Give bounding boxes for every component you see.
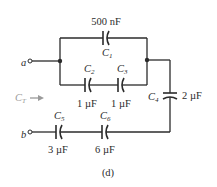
c4-value: 2 µF	[182, 90, 202, 101]
c3-label: C3	[117, 63, 128, 76]
c4-label: C4	[148, 91, 159, 104]
c6-value: 6 µF	[95, 144, 115, 155]
circuit-diagram: 500 nF C1 C2 1 µF C3 1 µF C4 2 µF C5 3 µ…	[0, 0, 217, 187]
ct-label: CT	[15, 92, 27, 105]
terminal-b-label: b	[21, 129, 26, 140]
arrow-right-icon	[38, 95, 44, 101]
c1-label: C1	[102, 47, 113, 60]
terminal-a	[28, 59, 32, 63]
c3-value: 1 µF	[111, 98, 131, 109]
c5-label: C5	[54, 110, 65, 123]
c5-value: 3 µF	[48, 144, 68, 155]
c1-value: 500 nF	[91, 16, 121, 27]
c2-label: C2	[84, 63, 95, 76]
junction-left	[58, 59, 62, 63]
terminal-b	[28, 130, 32, 134]
terminal-a-label: a	[21, 57, 26, 68]
figure-label: (d)	[102, 167, 115, 179]
c6-label: C6	[100, 110, 111, 123]
c2-value: 1 µF	[77, 98, 97, 109]
